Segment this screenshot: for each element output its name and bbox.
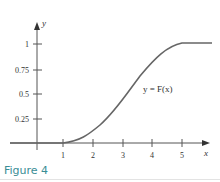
y-axis-label: y [41, 18, 46, 28]
x-tick-label: 4 [150, 151, 154, 160]
chart: 1 2 3 4 5 1 0.75 0.5 0.25 y x y = F(x) [0, 0, 220, 182]
cdf-curve [10, 43, 212, 143]
caption-divider [0, 179, 220, 180]
y-axis-arrow-icon [34, 22, 40, 30]
x-axis-label: x [203, 148, 208, 158]
x-axis-arrow-icon [202, 140, 210, 146]
figure-caption: Figure 4 [4, 164, 48, 177]
y-tick-label: 1 [25, 40, 29, 49]
curve-label: y = F(x) [143, 84, 173, 94]
y-tick-label: 0.25 [15, 115, 29, 124]
y-tick-label: 0.5 [19, 90, 29, 99]
x-tick-label: 3 [121, 151, 125, 160]
x-tick-label: 2 [91, 151, 95, 160]
x-tick-label: 1 [61, 151, 65, 160]
x-tick-label: 5 [180, 151, 184, 160]
y-tick-label: 0.75 [15, 66, 29, 75]
